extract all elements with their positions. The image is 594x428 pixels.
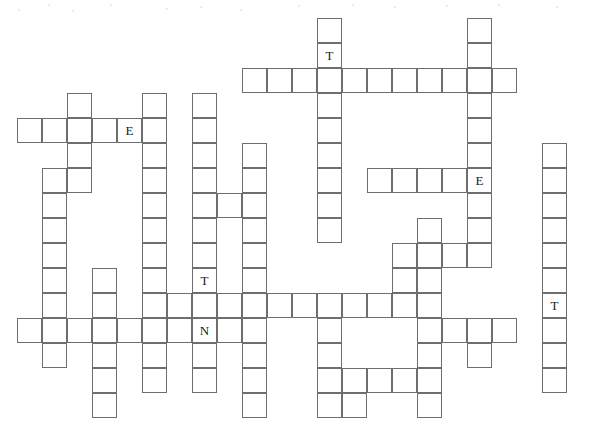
crossword-cell-empty[interactable]	[367, 68, 392, 93]
crossword-cell-empty[interactable]	[417, 218, 442, 243]
crossword-cell-filled[interactable]: T	[192, 268, 217, 293]
crossword-cell-empty[interactable]	[417, 293, 442, 318]
crossword-cell-empty[interactable]	[367, 293, 392, 318]
crossword-cell-empty[interactable]	[542, 243, 567, 268]
crossword-cell-empty[interactable]	[92, 268, 117, 293]
crossword-cell-empty[interactable]	[317, 168, 342, 193]
crossword-cell-empty[interactable]	[42, 218, 67, 243]
crossword-cell-empty[interactable]	[242, 268, 267, 293]
crossword-cell-empty[interactable]	[142, 368, 167, 393]
crossword-cell-empty[interactable]	[317, 118, 342, 143]
crossword-cell-empty[interactable]	[467, 18, 492, 43]
crossword-cell-empty[interactable]	[317, 318, 342, 343]
crossword-cell-empty[interactable]	[467, 118, 492, 143]
crossword-cell-empty[interactable]	[242, 218, 267, 243]
crossword-cell-empty[interactable]	[242, 168, 267, 193]
crossword-cell-empty[interactable]	[42, 293, 67, 318]
crossword-cell-empty[interactable]	[142, 243, 167, 268]
crossword-cell-empty[interactable]	[442, 168, 467, 193]
crossword-cell-empty[interactable]	[242, 193, 267, 218]
crossword-cell-empty[interactable]	[317, 18, 342, 43]
crossword-cell-empty[interactable]	[192, 343, 217, 368]
crossword-cell-empty[interactable]	[342, 393, 367, 418]
crossword-cell-empty[interactable]	[442, 68, 467, 93]
crossword-cell-empty[interactable]	[42, 118, 67, 143]
crossword-grid[interactable]: TEETTN	[0, 0, 594, 428]
crossword-cell-empty[interactable]	[317, 93, 342, 118]
crossword-cell-empty[interactable]	[342, 293, 367, 318]
crossword-cell-empty[interactable]	[67, 318, 92, 343]
crossword-cell-empty[interactable]	[17, 318, 42, 343]
crossword-cell-empty[interactable]	[417, 168, 442, 193]
crossword-cell-empty[interactable]	[542, 368, 567, 393]
crossword-cell-empty[interactable]	[92, 393, 117, 418]
crossword-cell-empty[interactable]	[217, 318, 242, 343]
crossword-cell-empty[interactable]	[17, 118, 42, 143]
crossword-cell-empty[interactable]	[192, 93, 217, 118]
crossword-cell-empty[interactable]	[317, 393, 342, 418]
crossword-cell-empty[interactable]	[417, 343, 442, 368]
crossword-cell-empty[interactable]	[117, 318, 142, 343]
crossword-cell-filled[interactable]: N	[192, 318, 217, 343]
crossword-cell-empty[interactable]	[192, 368, 217, 393]
crossword-cell-empty[interactable]	[417, 318, 442, 343]
crossword-cell-empty[interactable]	[267, 68, 292, 93]
crossword-cell-empty[interactable]	[142, 143, 167, 168]
crossword-cell-filled[interactable]: T	[317, 43, 342, 68]
crossword-cell-empty[interactable]	[42, 193, 67, 218]
crossword-cell-empty[interactable]	[192, 193, 217, 218]
crossword-cell-empty[interactable]	[192, 293, 217, 318]
crossword-cell-empty[interactable]	[92, 343, 117, 368]
crossword-cell-empty[interactable]	[542, 218, 567, 243]
crossword-cell-empty[interactable]	[242, 318, 267, 343]
crossword-cell-empty[interactable]	[392, 243, 417, 268]
crossword-cell-empty[interactable]	[192, 118, 217, 143]
crossword-cell-empty[interactable]	[342, 368, 367, 393]
crossword-cell-empty[interactable]	[192, 168, 217, 193]
crossword-cell-empty[interactable]	[142, 168, 167, 193]
crossword-cell-empty[interactable]	[417, 368, 442, 393]
crossword-cell-empty[interactable]	[542, 343, 567, 368]
crossword-cell-empty[interactable]	[242, 393, 267, 418]
crossword-cell-empty[interactable]	[67, 118, 92, 143]
crossword-cell-empty[interactable]	[317, 368, 342, 393]
crossword-cell-empty[interactable]	[342, 68, 367, 93]
crossword-cell-empty[interactable]	[467, 68, 492, 93]
crossword-cell-empty[interactable]	[542, 268, 567, 293]
crossword-cell-empty[interactable]	[467, 193, 492, 218]
crossword-cell-empty[interactable]	[242, 368, 267, 393]
crossword-cell-empty[interactable]	[242, 243, 267, 268]
crossword-cell-empty[interactable]	[267, 293, 292, 318]
crossword-cell-empty[interactable]	[67, 168, 92, 193]
crossword-cell-empty[interactable]	[192, 243, 217, 268]
crossword-cell-empty[interactable]	[467, 43, 492, 68]
crossword-cell-empty[interactable]	[92, 368, 117, 393]
crossword-cell-empty[interactable]	[467, 143, 492, 168]
crossword-cell-empty[interactable]	[442, 243, 467, 268]
crossword-cell-empty[interactable]	[417, 268, 442, 293]
crossword-cell-empty[interactable]	[417, 243, 442, 268]
crossword-cell-empty[interactable]	[242, 343, 267, 368]
crossword-cell-empty[interactable]	[392, 293, 417, 318]
crossword-cell-empty[interactable]	[242, 68, 267, 93]
crossword-cell-empty[interactable]	[42, 168, 67, 193]
crossword-cell-empty[interactable]	[217, 293, 242, 318]
crossword-cell-filled[interactable]: E	[467, 168, 492, 193]
crossword-cell-empty[interactable]	[192, 218, 217, 243]
crossword-cell-empty[interactable]	[242, 293, 267, 318]
crossword-cell-empty[interactable]	[542, 143, 567, 168]
crossword-cell-empty[interactable]	[142, 318, 167, 343]
crossword-cell-empty[interactable]	[392, 268, 417, 293]
crossword-cell-empty[interactable]	[42, 243, 67, 268]
crossword-cell-empty[interactable]	[467, 318, 492, 343]
crossword-cell-empty[interactable]	[92, 293, 117, 318]
crossword-cell-empty[interactable]	[42, 268, 67, 293]
crossword-cell-empty[interactable]	[417, 68, 442, 93]
crossword-cell-empty[interactable]	[92, 318, 117, 343]
crossword-cell-empty[interactable]	[467, 243, 492, 268]
crossword-cell-empty[interactable]	[167, 293, 192, 318]
crossword-cell-empty[interactable]	[67, 93, 92, 118]
crossword-cell-empty[interactable]	[317, 68, 342, 93]
crossword-cell-empty[interactable]	[367, 368, 392, 393]
crossword-cell-empty[interactable]	[442, 318, 467, 343]
